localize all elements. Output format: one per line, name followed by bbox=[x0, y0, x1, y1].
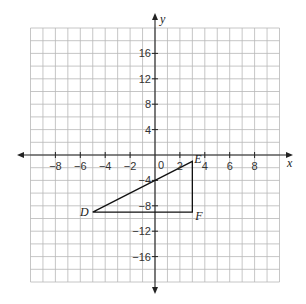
vertex-label-e: E bbox=[193, 152, 202, 166]
y-tick-label: −8 bbox=[138, 200, 151, 212]
y-axis-arrow-up-icon bbox=[152, 13, 158, 20]
vertex-label-d: D bbox=[79, 205, 89, 219]
axis-labels: −8−6−4−22468−16−12−8−44812160xyDEF bbox=[49, 12, 293, 263]
x-tick-label: −4 bbox=[99, 160, 112, 172]
x-tick-label: −2 bbox=[124, 160, 137, 172]
coordinate-plane: −8−6−4−22468−16−12−8−44812160xyDEF bbox=[0, 0, 306, 304]
y-tick-label: 12 bbox=[139, 73, 151, 85]
vertex-label-f: F bbox=[194, 209, 203, 223]
x-axis-label: x bbox=[286, 156, 293, 170]
y-tick-label: 16 bbox=[139, 47, 151, 59]
x-axis-arrow-left-icon bbox=[17, 152, 24, 158]
origin-label: 0 bbox=[158, 159, 164, 171]
x-tick-label: 6 bbox=[227, 160, 233, 172]
y-tick-label: −4 bbox=[138, 174, 151, 186]
x-tick-label: −8 bbox=[49, 160, 62, 172]
x-tick-label: 8 bbox=[252, 160, 258, 172]
y-tick-label: −12 bbox=[132, 225, 151, 237]
y-axis-arrow-down-icon bbox=[152, 287, 158, 294]
axes bbox=[17, 13, 293, 294]
x-tick-label: 4 bbox=[202, 160, 208, 172]
y-axis-label: y bbox=[159, 12, 166, 26]
y-tick-label: 4 bbox=[145, 124, 151, 136]
x-tick-label: −6 bbox=[74, 160, 87, 172]
y-tick-label: 8 bbox=[145, 98, 151, 110]
x-tick-label: 2 bbox=[177, 160, 183, 172]
y-tick-label: −16 bbox=[132, 251, 151, 263]
